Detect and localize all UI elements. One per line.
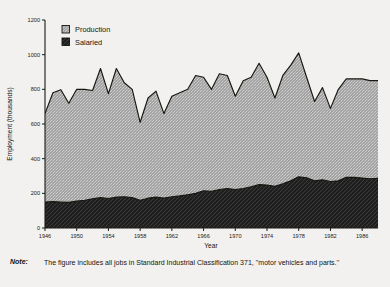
- chart-plot-region: 020040060080010001200 194619501954195819…: [0, 0, 390, 252]
- x-axis-ticks: 1946195019541958196219661970197419781982…: [39, 228, 369, 239]
- legend-label-production: Production: [75, 25, 110, 34]
- x-tick-label: 1946: [39, 233, 51, 239]
- x-tick-label: 1970: [229, 233, 241, 239]
- x-tick-label: 1962: [166, 233, 178, 239]
- x-tick-label: 1982: [324, 233, 336, 239]
- y-tick-label: 1200: [28, 17, 40, 23]
- figure-container: 020040060080010001200 194619501954195819…: [0, 0, 390, 287]
- y-axis-ticks: 020040060080010001200: [28, 17, 45, 231]
- note-text: The figure includes all jobs in Standard…: [44, 258, 374, 268]
- y-tick-label: 1000: [28, 52, 40, 58]
- y-tick-label: 200: [31, 190, 40, 196]
- stacked-areas: [45, 53, 378, 228]
- y-tick-label: 0: [37, 225, 40, 231]
- chart-legend: Production Salaried: [62, 25, 110, 47]
- x-axis-title: Year: [204, 242, 218, 249]
- x-tick-label: 1954: [102, 233, 114, 239]
- x-tick-label: 1958: [134, 233, 146, 239]
- legend-swatch-production: [62, 26, 70, 34]
- x-tick-label: 1978: [292, 233, 304, 239]
- x-tick-label: 1986: [356, 233, 368, 239]
- y-tick-label: 400: [31, 156, 40, 162]
- x-tick-label: 1966: [197, 233, 209, 239]
- legend-label-salaried: Salaried: [75, 38, 102, 47]
- legend-swatch-salaried: [62, 38, 70, 46]
- x-tick-label: 1950: [70, 233, 82, 239]
- y-tick-label: 600: [31, 121, 40, 127]
- x-tick-label: 1974: [261, 233, 273, 239]
- y-tick-label: 800: [31, 86, 40, 92]
- note-label: Note:: [10, 258, 44, 265]
- figure-note: Note: The figure includes all jobs in St…: [0, 252, 390, 287]
- employment-area-chart: 020040060080010001200 194619501954195819…: [0, 0, 390, 252]
- y-axis-title: Employment (thousands): [6, 87, 14, 160]
